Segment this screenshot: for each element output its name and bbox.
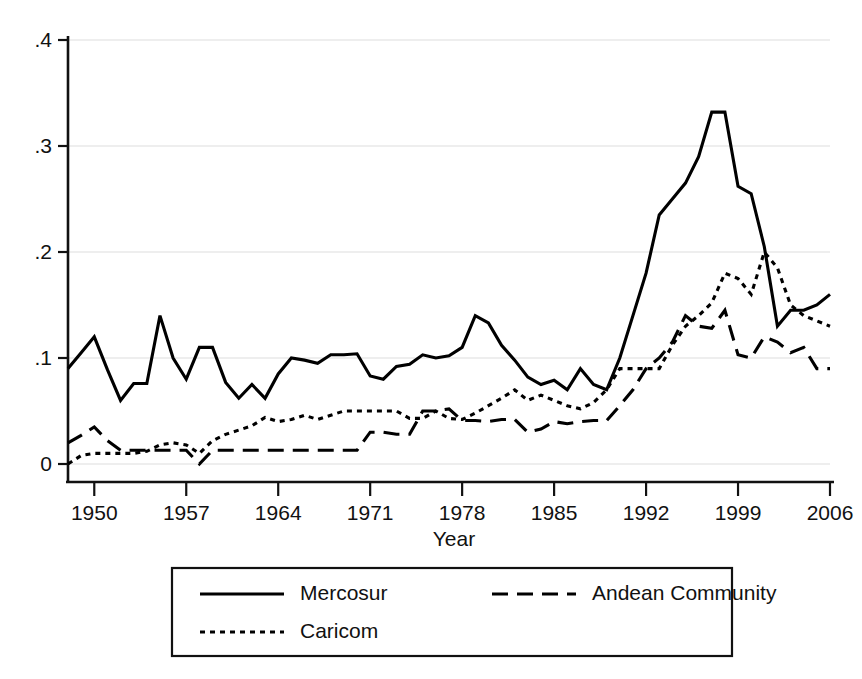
x-axis-ticks: 195019571964197119781985199219992006 [71,482,853,524]
x-tick-label: 1957 [163,501,210,524]
x-tick-label: 1999 [715,501,762,524]
y-tick-label: .4 [34,28,52,51]
axes [66,36,834,482]
x-tick-label: 2006 [807,501,854,524]
chart-legend: MercosurAndean CommunityCaricom [172,568,777,656]
y-axis-ticks: 0.1.2.3.4 [34,28,68,475]
y-tick-label: 0 [40,452,52,475]
x-axis-title: Year [433,527,475,550]
y-tick-label: .3 [34,134,52,157]
x-tick-label: 1950 [71,501,118,524]
y-tick-label: .2 [34,240,52,263]
series-line-mercosur [68,112,830,400]
chart-figure: 0.1.2.3.4 195019571964197119781985199219… [0,0,862,679]
x-tick-label: 1992 [623,501,670,524]
gridlines [68,40,830,464]
x-tick-label: 1971 [347,501,394,524]
x-tick-label: 1978 [439,501,486,524]
y-tick-label: .1 [34,346,52,369]
line-chart: 0.1.2.3.4 195019571964197119781985199219… [0,0,862,679]
legend-label-caricom: Caricom [300,619,378,642]
legend-label-andean-community: Andean Community [592,581,777,604]
legend-label-mercosur: Mercosur [300,581,388,604]
data-series-group [68,112,830,464]
x-tick-label: 1985 [531,501,578,524]
series-line-andean-community [68,310,830,464]
x-tick-label: 1964 [255,501,302,524]
